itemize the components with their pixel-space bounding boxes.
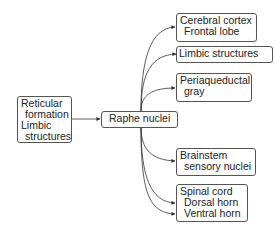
node-line: Frontal lobe [180, 26, 253, 37]
node-line: Limbic structures [179, 48, 269, 59]
node-line: sensory nuclei [180, 161, 252, 172]
node-line: gray [180, 86, 248, 97]
node-label: Raphe nuclei [109, 113, 174, 124]
target-node-brainstem-sensory-nuclei: Brainstem sensory nuclei [176, 148, 256, 176]
target-node-periaqueductal-gray: Periaqueductal gray [176, 73, 252, 102]
node-line: Ventral horn [180, 208, 244, 219]
target-node-limbic-structures: Limbic structures [176, 46, 273, 63]
source-node-reticular-limbic: Reticular formation Limbic structures [17, 96, 72, 143]
target-node-spinal-cord: Spinal cord Dorsal horn Ventral horn [176, 184, 248, 222]
node-line: structures [21, 131, 68, 142]
target-node-cerebral-cortex: Cerebral cortex Frontal lobe [176, 13, 257, 42]
hub-node-raphe-nuclei: Raphe nuclei [101, 111, 178, 128]
